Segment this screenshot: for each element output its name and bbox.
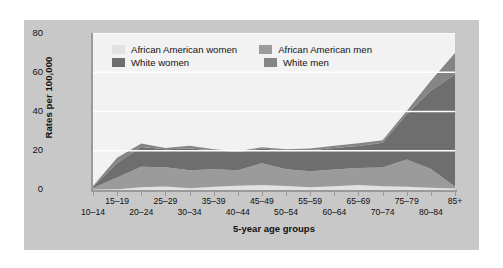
x-tick-label-75-79: 75–79 (395, 196, 419, 206)
x-tick-label-10-14: 10–14 (81, 207, 105, 217)
y-tick-label-80: 80 (17, 27, 43, 38)
legend-swatch-white-men (264, 58, 277, 67)
x-tick-labels: 10–1415–1920–2425–2930–3435–3940–4445–49… (93, 196, 455, 222)
x-tick-mark-55-59 (310, 192, 311, 196)
x-axis-spine (91, 190, 457, 192)
x-tick-mark-45-49 (262, 192, 263, 196)
x-tick-label-70-74: 70–74 (371, 207, 395, 217)
legend-entry-white-women: White women (112, 57, 264, 68)
x-tick-mark-85+ (455, 192, 456, 196)
x-tick-label-55-59: 55–59 (298, 196, 322, 206)
y-tick-label-0: 0 (17, 183, 43, 194)
legend-swatch-white-women (112, 58, 125, 67)
figure-container: Rates per 100,000 80 60 40 20 0 African … (0, 0, 503, 268)
x-tick-mark-70-74 (383, 192, 384, 196)
y-axis-title: Rates per 100,000 (43, 38, 54, 158)
legend-swatch-african-american-women (112, 45, 125, 54)
legend-entry-white-men: White men (264, 57, 329, 68)
y-tick-label-40: 40 (17, 105, 43, 116)
legend-swatch-african-american-men (259, 45, 272, 54)
x-axis-title: 5-year age groups (93, 223, 455, 234)
x-tick-mark-35-39 (214, 192, 215, 196)
y-tick-label-20: 20 (17, 144, 43, 155)
x-tick-label-40-44: 40–44 (226, 207, 250, 217)
x-tick-label-85+: 85+ (448, 196, 463, 206)
x-tick-label-65-69: 65–69 (347, 196, 371, 206)
legend: African American women African American … (112, 43, 372, 69)
x-tick-label-25-29: 25–29 (153, 196, 177, 206)
x-tick-label-50-54: 50–54 (274, 207, 298, 217)
x-tick-mark-10-14 (93, 192, 94, 196)
x-tick-mark-65-69 (358, 192, 359, 196)
y-tick-label-60: 60 (17, 66, 43, 77)
legend-row-2: White women White men (112, 56, 372, 69)
x-tick-label-35-39: 35–39 (202, 196, 226, 206)
x-tick-mark-15-19 (117, 192, 118, 196)
chart-panel: Rates per 100,000 80 60 40 20 0 African … (24, 20, 479, 250)
x-tick-mark-40-44 (238, 192, 239, 196)
legend-entry-african-american-women: African American women (112, 44, 259, 55)
legend-label-african-american-women: African American women (131, 44, 237, 55)
x-tick-label-80-84: 80–84 (419, 207, 443, 217)
stacked-areas-group (93, 53, 455, 190)
x-tick-label-30-34: 30–34 (178, 207, 202, 217)
y-axis-spine (91, 33, 93, 192)
x-tick-label-60-64: 60–64 (322, 207, 346, 217)
x-tick-mark-30-34 (190, 192, 191, 196)
x-tick-mark-75-79 (407, 192, 408, 196)
legend-label-white-men: White men (283, 57, 329, 68)
legend-row-1: African American women African American … (112, 43, 372, 56)
x-tick-label-20-24: 20–24 (129, 207, 153, 217)
x-tick-label-15-19: 15–19 (105, 196, 129, 206)
x-tick-mark-20-24 (141, 192, 142, 196)
x-tick-mark-50-54 (286, 192, 287, 196)
x-tick-mark-25-29 (165, 192, 166, 196)
x-tick-mark-80-84 (431, 192, 432, 196)
x-tick-label-45-49: 45–49 (250, 196, 274, 206)
legend-entry-african-american-men: African American men (259, 44, 372, 55)
legend-label-african-american-men: African American men (278, 44, 372, 55)
legend-label-white-women: White women (131, 57, 189, 68)
x-tick-mark-60-64 (334, 192, 335, 196)
